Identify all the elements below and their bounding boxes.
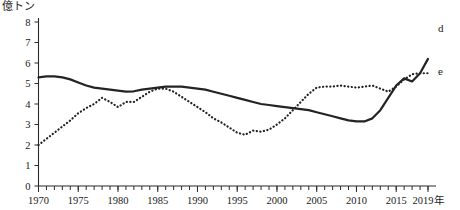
- x-tick-label: 2010: [346, 195, 367, 206]
- x-tick-label: 1980: [107, 195, 128, 206]
- x-tick-label: 1985: [147, 195, 168, 206]
- y-tick-label: 4: [25, 99, 31, 110]
- x-tick-label: 2019年: [413, 194, 444, 206]
- y-tick-label: 0: [25, 181, 30, 192]
- x-tick-label: 2000: [266, 195, 287, 206]
- y-tick-label: 5: [25, 78, 30, 89]
- line-chart-plot: 012345678 197019751980198519901995200020…: [0, 0, 460, 210]
- x-tick-label: 1970: [28, 195, 49, 206]
- x-tick-label: 1990: [187, 195, 208, 206]
- y-tick-label: 7: [25, 37, 30, 48]
- y-tick-label: 2: [25, 140, 30, 151]
- chart-container: 億トン 012345678 19701975198019851990199520…: [0, 0, 460, 210]
- series-label-group: de: [438, 22, 444, 77]
- y-tick-label: 8: [25, 17, 30, 28]
- y-tick-label: 1: [25, 160, 30, 171]
- y-tick-label: 3: [25, 119, 30, 130]
- series-line-e: [39, 73, 429, 145]
- x-tick-label: 2005: [306, 195, 327, 206]
- series-label-d: d: [438, 22, 444, 34]
- x-tick-label: 2015: [386, 195, 407, 206]
- x-axis-ticks: 1970197519801985199019952000200520102015…: [28, 186, 444, 206]
- x-tick-label: 1975: [68, 195, 89, 206]
- data-series-group: [39, 59, 429, 145]
- series-label-e: e: [438, 65, 443, 77]
- y-axis-ticks: 012345678: [25, 17, 38, 192]
- series-line-d: [39, 59, 429, 122]
- x-tick-label: 1995: [227, 195, 248, 206]
- y-tick-label: 6: [25, 58, 30, 69]
